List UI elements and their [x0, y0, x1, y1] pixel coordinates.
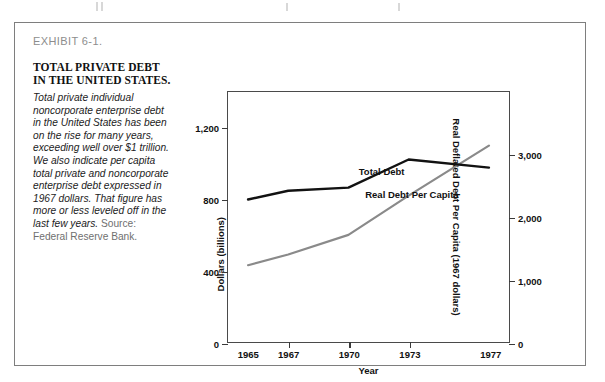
- exhibit-number-label: EXHIBIT 6-1.: [33, 35, 102, 47]
- y-tick-right: [509, 281, 515, 282]
- y-tick-left: [222, 200, 228, 201]
- plot-frame: Dollars (billions) Real Deflated Debt Pe…: [227, 91, 510, 343]
- y-tick-label-right: 0: [518, 339, 523, 350]
- series-label: Real Debt Per Capita: [365, 189, 458, 200]
- x-tick-label: 1970: [339, 349, 360, 360]
- scan-artifact-strip: [0, 0, 605, 20]
- y-tick-label-left: 0: [214, 339, 219, 350]
- caption-block: TOTAL PRIVATE DEBT IN THE UNITED STATES.…: [33, 61, 173, 243]
- y-tick-left: [222, 128, 228, 129]
- y-tick-right: [509, 218, 515, 219]
- y-tick-label-left: 800: [203, 195, 219, 206]
- x-tick: [349, 342, 350, 348]
- x-tick-label: 1973: [399, 349, 420, 360]
- caption-title: TOTAL PRIVATE DEBT IN THE UNITED STATES.: [33, 61, 173, 86]
- y-axis-label-left: Dollars (billions): [215, 217, 226, 291]
- y-tick-left: [222, 344, 228, 345]
- y-tick-left: [222, 272, 228, 273]
- x-tick-label: 1965: [238, 349, 259, 360]
- y-tick-label-right: 1,000: [518, 276, 542, 287]
- y-tick-label-right: 3,000: [518, 150, 542, 161]
- series-label: Total Debt: [359, 166, 405, 177]
- series-lines: [228, 92, 509, 342]
- x-tick-label: 1967: [278, 349, 299, 360]
- exhibit-container: EXHIBIT 6-1. TOTAL PRIVATE DEBT IN THE U…: [14, 22, 586, 366]
- y-tick-right: [509, 155, 515, 156]
- caption-body: Total private individual noncorporate en…: [33, 92, 173, 243]
- y-tick-label-right: 2,000: [518, 213, 542, 224]
- y-tick-label-left: 400: [203, 267, 219, 278]
- caption-description: Total private individual noncorporate en…: [33, 92, 169, 229]
- y-tick-right: [509, 344, 515, 345]
- x-tick: [410, 342, 411, 348]
- y-tick-label-left: 1,200: [195, 123, 219, 134]
- y-axis-label-right: Real Deflated Debt Per Capita (1967 doll…: [451, 118, 462, 315]
- x-axis-label: Year: [358, 365, 378, 376]
- x-tick-label: 1977: [480, 349, 501, 360]
- chart-area: Dollars (billions) Real Deflated Debt Pe…: [211, 67, 587, 367]
- x-tick: [289, 342, 290, 348]
